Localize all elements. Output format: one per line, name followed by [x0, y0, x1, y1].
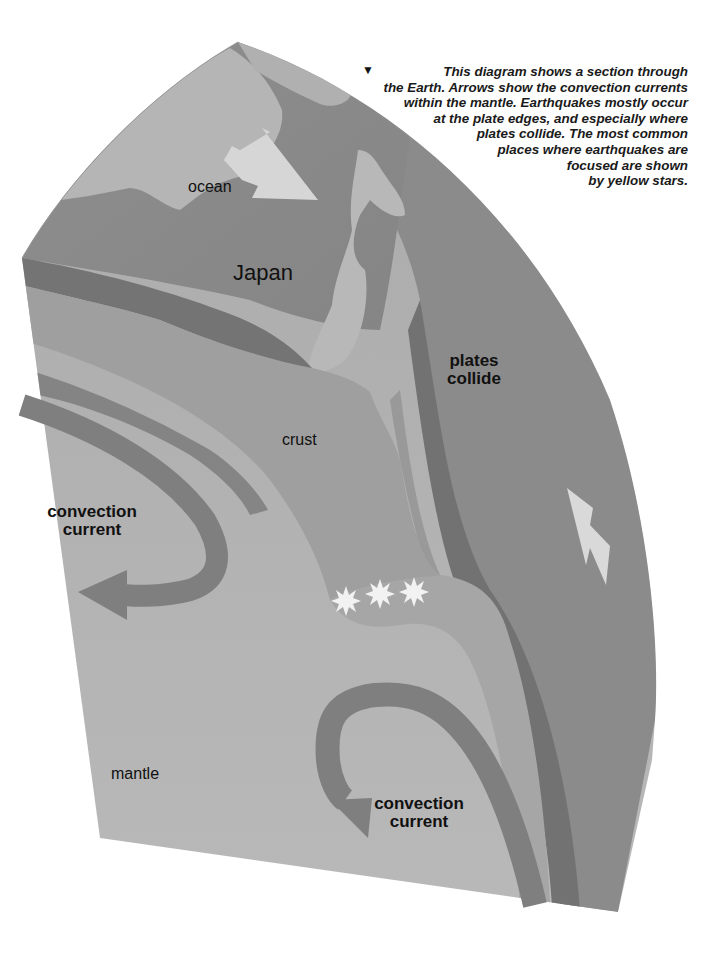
caption-line: focused are shown — [340, 158, 688, 174]
label-ocean: ocean — [188, 179, 232, 196]
caption-line: This diagram shows a section through — [340, 64, 688, 80]
label-plates-collide: plates collide — [444, 352, 504, 388]
label-crust: crust — [282, 432, 317, 449]
caption: This diagram shows a section through the… — [340, 64, 688, 189]
caption-line: at the plate edges, and especially where — [340, 111, 688, 127]
label-mantle: mantle — [111, 766, 159, 783]
label-convection-bottom: convection current — [367, 795, 471, 831]
label-current: current — [63, 520, 122, 539]
caption-line: places where earthquakes are — [340, 142, 688, 158]
caption-line: the Earth. Arrows show the convection cu… — [340, 80, 688, 96]
label-convection: convection — [47, 502, 137, 521]
label-current: current — [390, 812, 449, 831]
label-convection: convection — [374, 794, 464, 813]
label-collide: collide — [447, 369, 501, 388]
caption-line: within the mantle. Earthquakes mostly oc… — [340, 95, 688, 111]
label-japan: Japan — [233, 261, 293, 284]
caption-line: by yellow stars. — [340, 173, 688, 189]
label-plates: plates — [449, 351, 498, 370]
caption-line: plates collide. The most common — [340, 126, 688, 142]
label-convection-left: convection current — [40, 503, 144, 539]
